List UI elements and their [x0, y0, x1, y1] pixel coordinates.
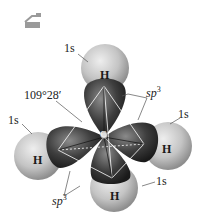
- orbital-label-left: 1s: [8, 114, 19, 126]
- atom-label-h-right: H: [162, 143, 171, 155]
- atom-label-c: C: [100, 130, 107, 139]
- orbital-label-bottom: 1s: [156, 175, 167, 187]
- hybrid-label-lower-left: sp3: [52, 194, 67, 207]
- hybrid-label-upper-right: sp3: [146, 86, 161, 99]
- atom-label-h-left: H: [33, 154, 42, 166]
- orbital-label-top: 1s: [64, 42, 75, 54]
- tray-icon: [24, 11, 44, 31]
- methane-diagram: [0, 0, 199, 215]
- orbital-label-right: 1s: [178, 108, 189, 120]
- atom-label-h-top: H: [100, 69, 109, 81]
- bond-angle-label: 109°28′: [24, 89, 61, 101]
- atom-label-h-bottom: H: [110, 190, 119, 202]
